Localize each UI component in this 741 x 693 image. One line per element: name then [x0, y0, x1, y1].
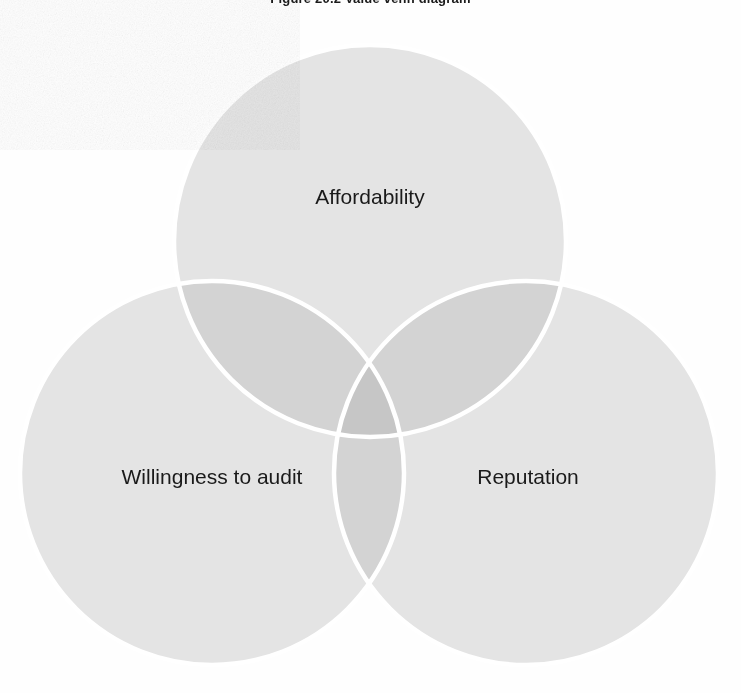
figure-caption: Figure 20.2 Value venn diagram — [0, 0, 741, 6]
venn-label-affordability: Affordability — [315, 185, 424, 209]
venn-label-willingness-to-audit: Willingness to audit — [122, 465, 303, 489]
venn-diagram — [0, 0, 741, 693]
figure-canvas: Figure 20.2 Value venn diagram — [0, 0, 741, 693]
venn-label-reputation: Reputation — [477, 465, 579, 489]
